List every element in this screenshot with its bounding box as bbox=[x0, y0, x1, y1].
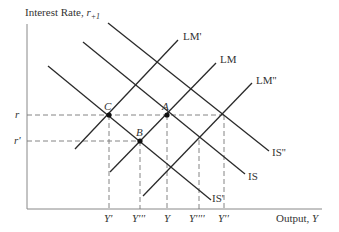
curve-label-is: IS bbox=[248, 171, 258, 182]
y-axis-label-text: Interest Rate, bbox=[25, 6, 86, 18]
is-lm-diagram bbox=[0, 0, 339, 232]
curves-group bbox=[48, 23, 269, 200]
curve-label-lm-double-prime: LM'' bbox=[256, 75, 276, 86]
x-tick-y-prime: Y' bbox=[104, 213, 112, 224]
point-label-c: C bbox=[104, 101, 111, 112]
x-axis-symbol: Y bbox=[312, 212, 318, 224]
equilibrium-point-b bbox=[137, 138, 142, 143]
curve-is-prime-prime bbox=[108, 23, 269, 151]
curve-lm-prime-prime bbox=[143, 83, 252, 196]
y-axis-label: Interest Rate, r+1 bbox=[25, 7, 100, 21]
x-axis-label-text: Output, bbox=[276, 212, 312, 224]
x-tick-y-quad-prime: Y'''' bbox=[189, 213, 205, 224]
curve-label-lm-prime: LM' bbox=[183, 31, 201, 42]
point-label-a: A bbox=[162, 101, 169, 112]
y-axis-subscript: +1 bbox=[91, 12, 100, 21]
x-axis-label: Output, Y bbox=[276, 213, 318, 224]
y-tick-r-prime: r' bbox=[14, 135, 21, 146]
y-tick-r: r bbox=[15, 109, 19, 120]
curve-label-is-prime: IS' bbox=[212, 193, 224, 204]
x-tick-y: Y bbox=[164, 213, 170, 224]
equilibrium-point-c bbox=[106, 112, 111, 117]
x-tick-y-double-prime: Y'' bbox=[218, 213, 229, 224]
x-tick-y-triple-prime: Y''' bbox=[132, 213, 145, 224]
curve-lm bbox=[110, 63, 216, 172]
curve-lm-prime bbox=[75, 40, 178, 149]
curve-label-lm: LM bbox=[220, 54, 237, 65]
curve-label-is-double-prime: IS'' bbox=[272, 147, 286, 158]
point-label-b: B bbox=[136, 127, 143, 138]
equilibrium-point-a bbox=[164, 112, 169, 117]
